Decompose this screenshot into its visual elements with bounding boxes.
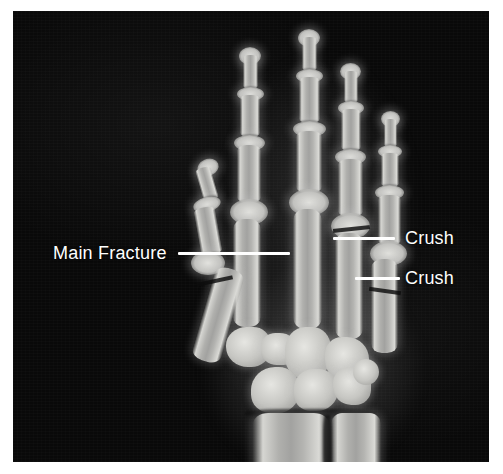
distal-ulna <box>331 413 381 462</box>
ring-metacarpal <box>335 233 363 339</box>
leader-line-crush-upper <box>333 237 395 240</box>
little-middle-phalanx <box>381 153 399 187</box>
middle-metacarpal <box>293 209 322 329</box>
distal-radius <box>253 413 329 462</box>
little-distal-phalanx <box>384 119 397 147</box>
middle-middle-phalanx <box>299 77 320 123</box>
little-metacarpal <box>371 259 398 353</box>
lunate-bone <box>294 369 338 411</box>
index-middle-phalanx <box>240 95 260 137</box>
index-proximal-phalanx <box>237 145 261 203</box>
leader-line-main-fracture <box>178 252 290 255</box>
annotation-label-main-fracture: Main Fracture <box>53 243 167 263</box>
index-distal-phalanx <box>243 55 258 89</box>
middle-proximal-phalanx <box>296 131 322 193</box>
radiograph-plate: Main Fracture Crush Crush <box>13 11 489 462</box>
ring-proximal-phalanx <box>338 159 363 217</box>
annotation-label-crush-lower: Crush <box>405 268 454 288</box>
scaphoid-bone <box>251 367 299 413</box>
ring-middle-phalanx <box>341 109 361 151</box>
middle-distal-phalanx <box>302 37 317 71</box>
thumb-proximal-phalanx <box>193 205 223 256</box>
ring-distal-phalanx <box>344 71 358 103</box>
annotation-label-crush-upper: Crush <box>405 228 454 248</box>
leader-line-crush-lower <box>355 277 400 280</box>
annotated-radiograph-figure: Main Fracture Crush Crush <box>0 0 503 474</box>
distal-radioulnar-joint <box>323 415 332 462</box>
pisiform-bone <box>353 359 379 385</box>
